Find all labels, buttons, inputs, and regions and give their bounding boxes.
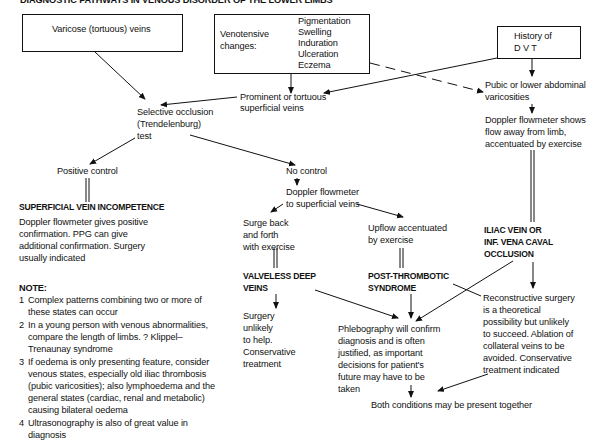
svi-text-line: usually indicated — [19, 252, 85, 264]
venotensive-label-1: Venotensive — [220, 28, 269, 40]
phlebography-line: taken — [338, 383, 360, 395]
venotensive-changes-box: Venotensive changes: Pigmentation Swelli… — [214, 14, 370, 74]
reconstructive-line: avoided. Conservative — [483, 352, 572, 364]
phlebography-line: decisions for patient's — [338, 359, 424, 371]
svi-text-line: additional confirmation. Surgery — [19, 240, 145, 252]
prominent-veins-line-2: superficial veins — [240, 102, 304, 114]
doppler-superficial-line-2: to superficial veins — [286, 198, 360, 210]
surge-line-1: Surge back — [243, 217, 288, 229]
note-number: 4 — [19, 417, 24, 429]
venotensive-label-2: changes: — [220, 40, 257, 52]
doppler-away-line-2: flow away from limb, — [485, 126, 566, 138]
phlebography-line: Phlebography will confirm — [338, 323, 440, 335]
note-heading: NOTE: — [19, 282, 47, 294]
surge-line-2: and forth — [243, 229, 278, 241]
selective-occlusion-line-1: Selective occlusion — [137, 106, 213, 118]
phlebography-line: future may have to be — [338, 371, 425, 383]
selective-occlusion-line-2: (Trendelenburg) — [137, 118, 201, 130]
note-line: Complex patterns combining two or more o… — [28, 294, 202, 306]
reconstructive-line: to succeed. Ablation of — [483, 328, 573, 340]
post-thrombotic-line-1: POST-THROMBOTIC — [368, 270, 449, 282]
reconstructive-line: possibility but unlikely — [483, 316, 569, 328]
note-line: diagnosis — [28, 429, 66, 440]
upflow-line-1: Upflow accentuated — [368, 222, 447, 234]
note-line: In a young person with venous abnormalit… — [28, 319, 208, 331]
varicose-veins-box: Varicose (tortuous) veins — [22, 14, 183, 52]
reconstructive-line: collateral veins to be — [483, 340, 565, 352]
reconstructive-line: is a theoretical — [483, 304, 541, 316]
pubic-varicosities-line-1: Pubic or lower abdominal — [485, 79, 586, 91]
note-line: these states can occur — [28, 306, 118, 318]
note-number: 2 — [19, 319, 24, 331]
phlebography-line: justified, as important — [338, 347, 423, 359]
surgery-unlikely-line: Surgery — [243, 310, 274, 322]
phlebography-line: diagnosis and is often — [338, 335, 425, 347]
surgery-unlikely-line: Conservative — [243, 346, 295, 358]
iliac-occlusion-line-3: OCCLUSION — [484, 248, 534, 260]
both-conditions: Both conditions may be present together — [371, 399, 532, 411]
valveless-deep-veins-line-2: VEINS — [243, 282, 268, 294]
note-line: (pubic varicosities); also lymphoedema a… — [28, 380, 215, 392]
venotensive-item: Eczema — [298, 59, 331, 71]
surgery-unlikely-line: to help. — [243, 334, 272, 346]
iliac-occlusion-line-2: INF. VENA CAVAL — [484, 236, 553, 248]
history-dvt-line-1: History of — [514, 30, 552, 42]
note-line: Trenaunay syndrome — [28, 343, 113, 355]
history-dvt-line-2: D V T — [514, 42, 537, 54]
superficial-vein-incompetence-heading: SUPERFICIAL VEIN INCOMPETENCE — [19, 201, 164, 213]
doppler-superficial-line-1: Doppler flowmeter — [286, 186, 359, 198]
positive-control: Positive control — [57, 165, 118, 177]
reconstructive-line: Reconstructive surgery — [483, 292, 575, 304]
upflow-line-2: by exercise — [368, 234, 413, 246]
note-line: venous states, especially old iliac thro… — [28, 368, 206, 380]
pubic-varicosities-line-2: varicosities — [485, 91, 529, 103]
svi-text-line: Doppler flowmeter gives positive — [19, 216, 148, 228]
doppler-away-line-3: accentuated by exercise — [485, 138, 582, 150]
surgery-unlikely-line: unlikely — [243, 322, 273, 334]
varicose-veins-label: Varicose (tortuous) veins — [52, 23, 150, 35]
note-line: Ultrasonography is also of great value i… — [28, 417, 188, 429]
surge-line-3: with exercise — [243, 241, 295, 253]
selective-occlusion-line-3: test — [137, 130, 151, 142]
iliac-occlusion-line-1: ILIAC VEIN OR — [484, 224, 542, 236]
surgery-unlikely-line: treatment — [243, 358, 281, 370]
note-line: compare the length of limbs. ? Klippel– — [28, 331, 182, 343]
note-line: causing bilateral oedema — [28, 404, 128, 416]
post-thrombotic-line-2: SYNDROME — [368, 282, 416, 294]
note-line: general states (cardiac, renal and metab… — [28, 392, 205, 404]
history-dvt-box: History of D V T — [497, 26, 581, 59]
valveless-deep-veins-line-1: VALVELESS DEEP — [243, 270, 316, 282]
note-line: If oedema is only presenting feature, co… — [28, 356, 209, 368]
no-control: No control — [286, 165, 327, 177]
svi-text-line: confirmation. PPG can give — [19, 228, 128, 240]
note-number: 3 — [19, 356, 24, 368]
doppler-away-line-1: Doppler flowmeter shows — [485, 114, 586, 126]
note-number: 1 — [19, 294, 24, 306]
reconstructive-line: treatment indicated — [483, 364, 559, 376]
